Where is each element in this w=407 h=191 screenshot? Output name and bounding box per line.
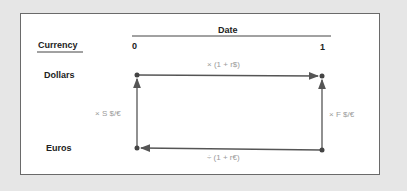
interest-euro-label: ÷ (1 + r€)	[207, 153, 240, 162]
interest-dollar-label: × (1 + r$)	[207, 60, 240, 69]
date-0-label: 0	[132, 41, 137, 51]
date-1-label: 1	[320, 42, 325, 52]
cash-flow-arrows	[0, 0, 407, 191]
date-heading: Date	[218, 25, 238, 35]
currency-heading: Currency	[38, 40, 78, 50]
node-euros-0	[135, 146, 140, 151]
spot-rate-label: × S $/€	[95, 109, 121, 118]
forward-rate-label: × F $/€	[329, 110, 354, 119]
node-dollars-1	[320, 74, 325, 79]
node-dollars-0	[135, 73, 140, 78]
dollars-label: Dollars	[44, 70, 75, 80]
node-euros-1	[320, 148, 325, 153]
euros-label: Euros	[46, 143, 72, 153]
